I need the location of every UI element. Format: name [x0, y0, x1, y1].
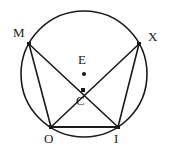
chord-X-O — [51, 44, 139, 127]
geometry-canvas — [0, 0, 170, 157]
point-label-i: I — [114, 132, 118, 145]
point-label-e: E — [78, 53, 86, 66]
point-marker-c — [81, 88, 85, 92]
point-marker-m — [27, 42, 31, 46]
geometry-figure: MXECOI — [0, 0, 170, 157]
point-marker-x — [137, 42, 141, 46]
chord-M-O — [29, 44, 51, 127]
point-label-x: X — [148, 30, 157, 43]
point-marker-o — [49, 125, 53, 129]
point-label-c: C — [76, 94, 85, 107]
point-label-o: O — [44, 132, 53, 145]
point-marker-i — [116, 125, 120, 129]
point-marker-e — [82, 72, 86, 76]
chord-M-I — [29, 44, 118, 127]
point-label-m: M — [13, 26, 25, 39]
chord-X-I — [118, 44, 139, 127]
